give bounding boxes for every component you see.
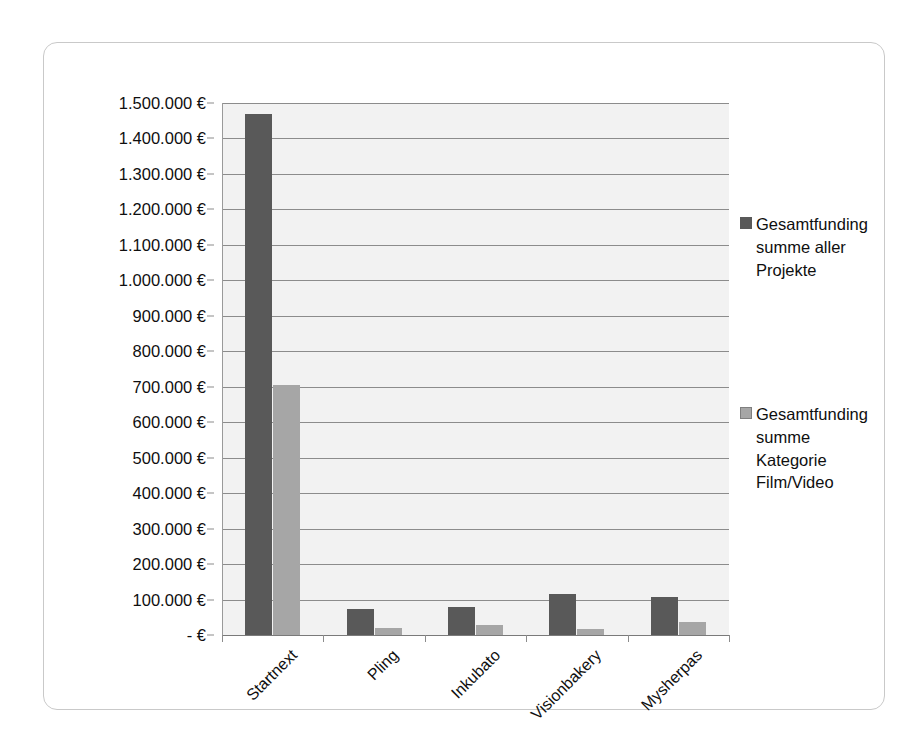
y-axis-tick-mark (207, 386, 214, 387)
x-axis-tick-mark (526, 635, 527, 642)
y-axis-tick-label: 1.000.000 € (119, 272, 206, 289)
y-axis-tick-label: 600.000 € (133, 414, 206, 431)
y-axis-tick-mark (207, 209, 214, 210)
y-axis-tick-label: 700.000 € (133, 378, 206, 395)
y-axis-tick-label: 900.000 € (133, 308, 206, 325)
bar-group (526, 103, 627, 635)
y-axis-tick-mark (207, 528, 214, 529)
x-axis-tick-label: Startnext (243, 647, 300, 704)
legend-swatch-icon (740, 407, 752, 419)
y-axis-tick-mark (207, 635, 214, 636)
y-axis-tick-mark (207, 422, 214, 423)
x-axis-tick-mark (425, 635, 426, 642)
y-axis-tick-label: 1.300.000 € (119, 166, 206, 183)
x-axis-tick-label: Pling (365, 647, 401, 683)
y-axis-tick-mark (207, 103, 214, 104)
y-axis-tick-mark (207, 599, 214, 600)
y-axis-tick-label: 1.100.000 € (119, 237, 206, 254)
x-axis-tick-label: Inkubato (448, 647, 503, 702)
x-axis-tick-mark (222, 635, 223, 642)
bars-layer (222, 103, 729, 635)
bar (347, 609, 374, 635)
y-axis-tick-mark (207, 315, 214, 316)
y-axis-tick-label: 1.400.000 € (119, 130, 206, 147)
y-axis-tick-mark (207, 564, 214, 565)
bar-group (628, 103, 729, 635)
x-axis-tick-mark (323, 635, 324, 642)
legend-label: Gesamtfundingsumme allerProjekte (756, 213, 868, 281)
y-axis-tick-label: 800.000 € (133, 343, 206, 360)
y-axis-tick-label: 500.000 € (133, 449, 206, 466)
legend-label: GesamtfundingsummeKategorieFilm/Video (756, 403, 868, 494)
y-axis-tick-mark (207, 280, 214, 281)
y-axis-tick-label: - € (187, 627, 206, 644)
bar-group (323, 103, 424, 635)
bar (273, 385, 300, 635)
bar (245, 114, 272, 635)
y-axis-tick-label: 300.000 € (133, 520, 206, 537)
x-axis-tick-label: Mysherpas (639, 647, 706, 714)
y-axis-tick-label: 100.000 € (133, 591, 206, 608)
x-axis-tick-mark (729, 635, 730, 642)
legend-entry: Gesamtfundingsumme allerProjekte (740, 213, 868, 281)
legend-entry: GesamtfundingsummeKategorieFilm/Video (740, 403, 868, 494)
legend-swatch-icon (740, 217, 752, 229)
y-axis-tick-mark (207, 493, 214, 494)
x-axis-line (222, 635, 729, 636)
y-axis-tick-label: 400.000 € (133, 485, 206, 502)
y-axis-tick-mark (207, 173, 214, 174)
x-axis-tick-label: Visionbakery (528, 647, 604, 723)
bar-group (425, 103, 526, 635)
y-axis-tick-mark (207, 351, 214, 352)
bar (651, 597, 678, 635)
y-axis: - €100.000 €200.000 €300.000 €400.000 €5… (94, 103, 214, 635)
x-axis-tick-mark (628, 635, 629, 642)
bar (476, 625, 503, 635)
y-axis-tick-mark (207, 244, 214, 245)
bar (549, 594, 576, 635)
bar (448, 607, 475, 635)
bar (679, 622, 706, 635)
y-axis-tick-label: 1.500.000 € (119, 95, 206, 112)
y-axis-tick-mark (207, 457, 214, 458)
y-axis-tick-mark (207, 138, 214, 139)
y-axis-tick-label: 1.200.000 € (119, 201, 206, 218)
y-axis-tick-label: 200.000 € (133, 556, 206, 573)
chart-frame: - €100.000 €200.000 €300.000 €400.000 €5… (43, 42, 885, 710)
bar (375, 628, 402, 635)
bar-group (222, 103, 323, 635)
